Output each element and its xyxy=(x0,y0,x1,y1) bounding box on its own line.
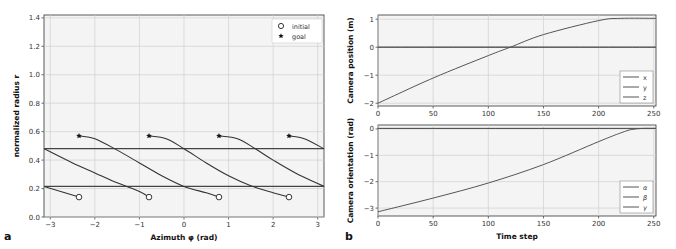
y-tick-label: −1 xyxy=(364,72,374,80)
x-tick-label: −3 xyxy=(45,221,55,229)
legend-label: x xyxy=(643,74,647,82)
x-tick-label: 2 xyxy=(271,221,275,229)
x-tick-label: 50 xyxy=(429,220,438,228)
x-tick-label: 200 xyxy=(592,220,605,228)
y-tick-label: 0.0 xyxy=(29,214,40,222)
x-tick-label: 0 xyxy=(376,220,380,228)
legend-label: goal xyxy=(292,33,306,41)
y-tick-label: 0.8 xyxy=(29,100,40,108)
x-tick-label: 250 xyxy=(647,220,660,228)
chart-b-top: 050100150200250−2−101Camera position (m)… xyxy=(346,15,660,118)
y-tick-label: 1.0 xyxy=(29,71,40,79)
x-tick-label: 150 xyxy=(537,110,550,118)
y-tick-label: 0.4 xyxy=(29,157,41,165)
y-axis-label: normalized radius r xyxy=(12,74,21,157)
y-tick-label: −2 xyxy=(364,100,374,108)
legend-label: α xyxy=(643,184,648,192)
x-tick-label: −2 xyxy=(90,221,100,229)
chart-b-bottom: 050100150200250−3−2−10Time stepCamera or… xyxy=(346,118,660,241)
y-tick-label: 1.2 xyxy=(29,43,40,51)
y-tick-label: 1 xyxy=(370,16,374,24)
figure: −3−2−101230.00.20.40.60.81.01.21.4Azimut… xyxy=(0,0,676,249)
y-tick-label: −2 xyxy=(364,178,374,186)
legend-label: y xyxy=(643,84,647,92)
x-tick-label: 3 xyxy=(315,221,319,229)
plot-area xyxy=(378,125,656,216)
chart-a: −3−2−101230.00.20.40.60.81.01.21.4Azimut… xyxy=(12,14,324,242)
y-tick-label: 0 xyxy=(370,125,374,133)
x-axis-label: Azimuth φ (rad) xyxy=(151,233,218,242)
x-tick-label: 1 xyxy=(226,221,230,229)
x-tick-label: 50 xyxy=(429,110,438,118)
x-tick-label: 200 xyxy=(592,110,605,118)
legend-label: β xyxy=(643,194,647,202)
legend: xyz xyxy=(620,71,653,103)
y-axis-label: Camera position (m) xyxy=(346,17,355,103)
y-tick-label: −1 xyxy=(364,152,374,160)
y-tick-label: 1.4 xyxy=(29,14,41,22)
initial-marker xyxy=(76,194,82,200)
legend: initialgoal xyxy=(272,19,322,43)
y-tick-label: 0.2 xyxy=(29,185,40,193)
x-tick-label: −1 xyxy=(134,221,144,229)
panel-label-a: a xyxy=(4,230,11,243)
legend-label: initial xyxy=(292,23,310,31)
initial-marker xyxy=(286,194,292,200)
initial-marker xyxy=(146,194,152,200)
x-tick-label: 100 xyxy=(482,220,495,228)
x-tick-label: 0 xyxy=(376,110,380,118)
x-tick-label: 250 xyxy=(647,110,660,118)
legend-initial-marker xyxy=(278,23,283,28)
plot-area xyxy=(378,15,656,106)
x-tick-label: 100 xyxy=(482,110,495,118)
legend-label: z xyxy=(643,94,647,102)
y-tick-label: 0 xyxy=(370,44,374,52)
x-tick-label: 0 xyxy=(182,221,186,229)
y-tick-label: −3 xyxy=(364,205,374,213)
panel-label-b: b xyxy=(345,230,353,243)
x-tick-label: 150 xyxy=(537,220,550,228)
legend: αβγ xyxy=(620,181,653,213)
y-tick-label: 0.6 xyxy=(29,128,41,136)
x-axis-label: Time step xyxy=(496,232,538,241)
y-axis-label: Camera orientation (rad) xyxy=(346,118,355,224)
initial-marker xyxy=(216,194,222,200)
